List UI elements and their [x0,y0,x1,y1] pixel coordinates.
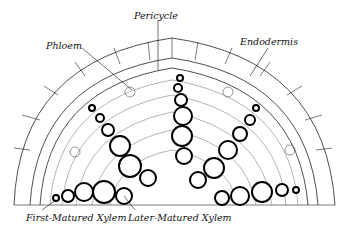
root-cross-section-diagram: Pericycle Phloem Endodermis First-Mature… [0,0,345,238]
cortex-outline [14,38,335,205]
endodermis-leader [250,48,268,76]
label-phloem: Phloem [46,40,82,51]
label-first-matured-xylem: First-Matured Xylem [26,212,126,223]
phloem-leader [82,48,132,90]
label-later-matured-xylem: Later-Matured Xylem [128,212,232,223]
label-pericycle: Pericycle [134,10,178,21]
label-endodermis: Endodermis [240,36,298,47]
